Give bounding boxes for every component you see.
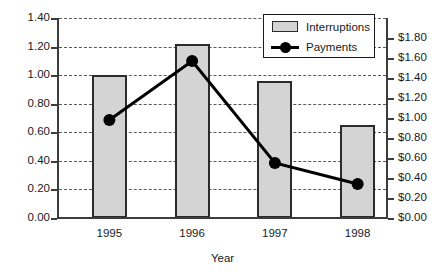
right-axis-tick	[388, 218, 394, 220]
x-axis-title: Year	[57, 253, 388, 265]
right-axis-tick-label: $0.80	[398, 132, 439, 144]
legend-item-interruptions: Interruptions	[264, 16, 376, 38]
left-axis-tick-label: 1.00	[8, 69, 50, 81]
x-axis-line	[57, 217, 388, 219]
x-axis-tick-label: 1998	[323, 228, 393, 240]
left-axis-tick-label: 1.40	[8, 12, 50, 24]
right-axis-tick-label: $1.60	[398, 52, 439, 64]
x-axis-tick-label: 1997	[240, 228, 310, 240]
payments-markers	[103, 55, 363, 190]
right-axis-tick-label: $0.20	[398, 192, 439, 204]
right-axis-tick-label: $0.40	[398, 172, 439, 184]
left-axis-line	[57, 18, 59, 219]
right-axis-tick-label: $1.80	[398, 32, 439, 44]
bar-swatch-icon	[272, 21, 298, 32]
x-axis-tick-label: 1995	[74, 228, 144, 240]
right-axis-tick	[388, 138, 394, 140]
right-axis-tick-label: $1.20	[398, 92, 439, 104]
chart-legend: Interruptions Payments	[263, 14, 375, 58]
x-axis-tick-label: 1996	[157, 228, 227, 240]
right-axis-tick	[388, 178, 394, 180]
right-axis-line	[386, 18, 388, 219]
left-axis-tick-label: 0.60	[8, 127, 50, 139]
payments-marker	[352, 178, 364, 190]
left-axis-tick-label: 0.00	[8, 212, 50, 224]
left-axis-tick-label: 0.20	[8, 184, 50, 196]
right-axis-tick	[388, 118, 394, 120]
payments-marker	[103, 114, 115, 126]
payments-line-path	[109, 61, 357, 184]
chart-container: 0.000.200.400.600.801.001.201.40 $0.00$0…	[0, 0, 439, 277]
right-axis-tick-label: $0.60	[398, 152, 439, 164]
payments-marker	[269, 157, 281, 169]
marker-dot-icon	[280, 42, 291, 53]
right-axis-tick	[388, 38, 394, 40]
right-axis-tick	[388, 58, 394, 60]
right-axis-tick	[388, 198, 394, 200]
payments-marker	[186, 55, 198, 67]
legend-item-label: Interruptions	[306, 16, 370, 38]
right-axis-tick-label: $1.40	[398, 72, 439, 84]
legend-item-label: Payments	[306, 36, 357, 58]
right-axis-tick-label: $0.00	[398, 212, 439, 224]
legend-item-payments: Payments	[264, 36, 376, 58]
right-axis-tick	[388, 158, 394, 160]
right-axis-tick-label: $1.00	[398, 112, 439, 124]
left-axis-tick-label: 1.20	[8, 41, 50, 53]
left-axis-tick-label: 0.40	[8, 155, 50, 167]
right-axis-tick	[388, 78, 394, 80]
right-axis-tick	[388, 98, 394, 100]
left-axis-tick-label: 0.80	[8, 98, 50, 110]
